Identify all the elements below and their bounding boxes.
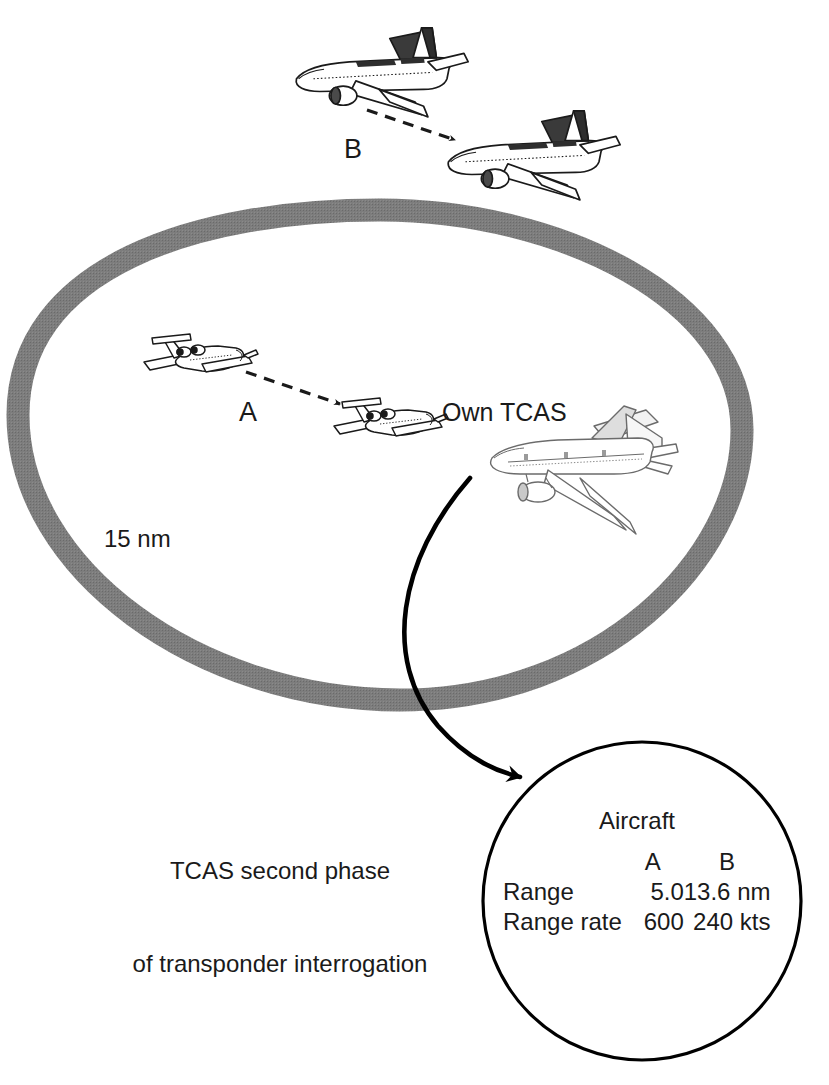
twinjet-airliner-icon xyxy=(448,111,620,200)
intruder-a-label: A xyxy=(239,399,257,426)
cell-range-rate-a: 600 xyxy=(622,907,684,937)
callout-heading: Aircraft xyxy=(599,807,675,835)
table-row: Range 5.0 13.6 nm xyxy=(503,877,770,907)
cell-range-b: 13.6 nm xyxy=(684,877,771,907)
diagram-caption: TCAS second phase of transponder interro… xyxy=(104,793,456,1041)
row-label-range: Range xyxy=(503,877,622,907)
dashed-arrow-icon xyxy=(367,110,455,140)
business-jet-icon xyxy=(334,398,448,436)
intruder-a-group xyxy=(144,334,448,436)
column-header-a: A xyxy=(622,847,684,877)
twinjet-airliner-icon xyxy=(296,28,468,117)
intruder-b-group xyxy=(296,28,620,200)
own-tcas-label: Own TCAS xyxy=(442,400,567,425)
table-row: Range rate 600 240 kts xyxy=(503,907,770,937)
business-jet-icon xyxy=(144,334,258,372)
table-header-row: A B xyxy=(503,847,770,877)
diagram-canvas: B A Own TCAS 15 nm TCAS second phase of … xyxy=(0,0,829,1085)
curved-arrow-icon xyxy=(404,478,520,777)
intruder-b-label: B xyxy=(344,136,362,163)
caption-line-1: TCAS second phase xyxy=(104,855,456,886)
range-ring-label: 15 nm xyxy=(104,527,171,551)
callout-data-table: A B Range 5.0 13.6 nm Range rate 600 240… xyxy=(503,847,770,937)
caption-line-2: of transponder interrogation xyxy=(104,948,456,979)
column-header-b: B xyxy=(684,847,771,877)
cell-range-rate-b: 240 kts xyxy=(684,907,771,937)
row-label-range-rate: Range rate xyxy=(503,907,622,937)
table-corner-cell xyxy=(503,847,622,877)
cell-range-a: 5.0 xyxy=(622,877,684,907)
dashed-arrow-icon xyxy=(246,372,340,404)
